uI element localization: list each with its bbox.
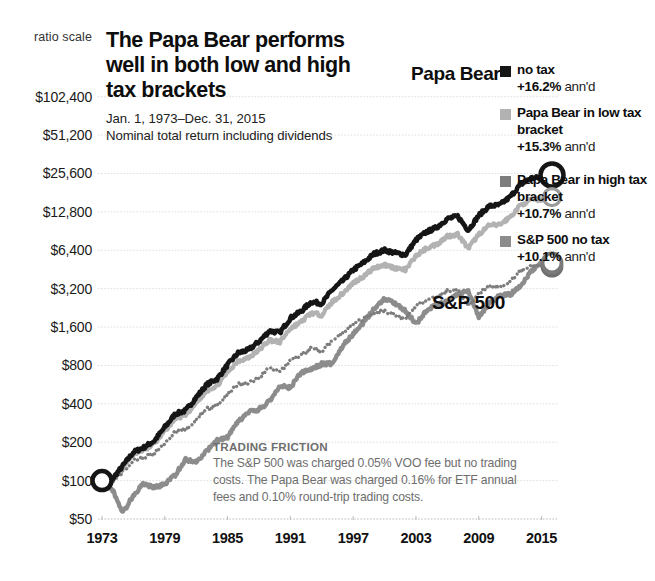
chart-page: ratio scale $102,400$51,200$25,600$12,80… — [0, 0, 655, 581]
chart-subtitle: Jan. 1, 1973–Dec. 31, 2015 Nominal total… — [106, 110, 376, 145]
legend-annualized-unit: ann'd — [561, 206, 595, 221]
legend-annualized-unit: ann'd — [561, 139, 595, 154]
legend-text: no tax+16.2% ann'd — [517, 62, 595, 96]
legend-series-name: Papa Bear in high tax bracket — [517, 172, 647, 204]
sp500-series-label: S&P 500 — [432, 292, 505, 314]
subtitle-daterange: Jan. 1, 1973–Dec. 31, 2015 — [106, 110, 376, 127]
legend-item[interactable]: Papa Bear in high tax bracket+10.7% ann'… — [500, 172, 652, 223]
legend-swatch-icon — [500, 109, 511, 120]
chart-legend: no tax+16.2% ann'dPapa Bear in low tax b… — [500, 62, 652, 275]
legend-annualized-return: +15.3% — [517, 139, 561, 154]
title-block: The Papa Bear performs well in both low … — [106, 28, 376, 145]
legend-item[interactable]: S&P 500 no tax+10.1% ann'd — [500, 232, 652, 266]
legend-annualized-return: +10.7% — [517, 206, 561, 221]
chart-title: The Papa Bear performs well in both low … — [106, 28, 376, 103]
x-axis-tick-label: 1973 — [86, 530, 117, 546]
legend-text: Papa Bear in high tax bracket+10.7% ann'… — [517, 172, 652, 223]
subtitle-returnbasis: Nominal total return including dividends — [106, 127, 376, 144]
legend-annualized-unit: ann'd — [561, 249, 595, 264]
legend-item[interactable]: Papa Bear in low tax bracket+15.3% ann'd — [500, 105, 652, 156]
legend-series-name: S&P 500 no tax — [517, 232, 609, 247]
legend-annualized-unit: ann'd — [561, 79, 595, 94]
legend-annualized-return: +10.1% — [517, 249, 561, 264]
x-axis-tick-label: 2015 — [526, 530, 557, 546]
legend-swatch-icon — [500, 176, 511, 187]
legend-swatch-icon — [500, 236, 511, 247]
x-axis-tick-label: 1985 — [212, 530, 243, 546]
legend-series-name: Papa Bear in low tax bracket — [517, 105, 641, 137]
legend-swatch-icon — [500, 66, 511, 77]
x-axis-tick-label: 2009 — [463, 530, 494, 546]
trading-friction-note: TRADING FRICTION The S&P 500 was charged… — [213, 440, 523, 505]
x-axis-tick-label: 2003 — [400, 530, 431, 546]
x-axis-tick-label: 1997 — [338, 530, 369, 546]
trading-friction-heading: TRADING FRICTION — [213, 440, 523, 453]
legend-annualized-return: +16.2% — [517, 79, 561, 94]
legend-text: S&P 500 no tax+10.1% ann'd — [517, 232, 609, 266]
legend-item[interactable]: no tax+16.2% ann'd — [500, 62, 652, 96]
legend-series-name: no tax — [517, 62, 555, 77]
papa-bear-series-label: Papa Bear — [411, 63, 500, 85]
x-axis-tick-label: 1979 — [149, 530, 180, 546]
trading-friction-body: The S&P 500 was charged 0.05% VOO fee bu… — [213, 455, 523, 505]
x-axis-tick-label: 1991 — [275, 530, 306, 546]
legend-text: Papa Bear in low tax bracket+15.3% ann'd — [517, 105, 652, 156]
